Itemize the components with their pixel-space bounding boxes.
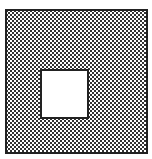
- inner-square-hole: [40, 69, 89, 119]
